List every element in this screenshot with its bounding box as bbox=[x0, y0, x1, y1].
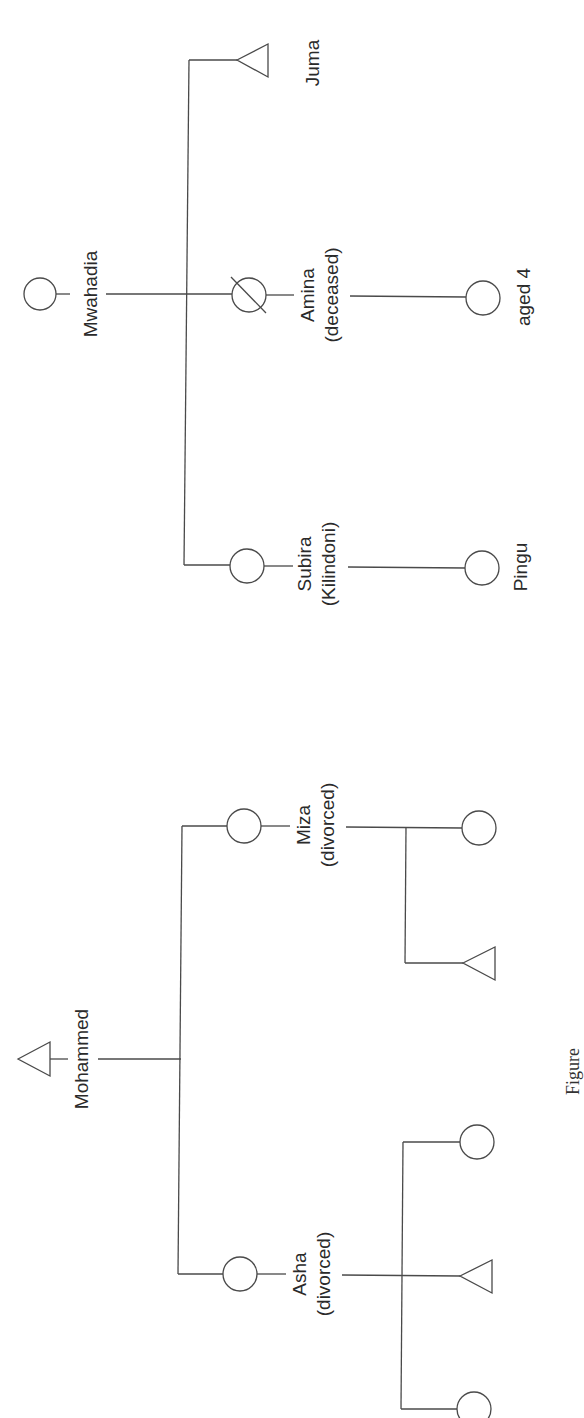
label-miza: Miza (divorced) bbox=[292, 774, 340, 876]
female-node-icon-mwahadia bbox=[24, 278, 56, 310]
figure-caption-text: Figure bbox=[563, 1048, 583, 1095]
name-miza: Miza bbox=[292, 774, 316, 876]
female-node-icon-miza-daughter bbox=[462, 811, 496, 845]
label-pingu: Pingu bbox=[509, 532, 533, 602]
label-amina: Amina (deceased) bbox=[296, 239, 344, 351]
label-mohammed: Mohammed bbox=[70, 997, 94, 1121]
edge-amina-to-child bbox=[350, 296, 466, 297]
label-mwahadia: Mwahadia bbox=[79, 238, 103, 350]
label-aged4: aged 4 bbox=[512, 258, 536, 336]
name-amina: Amina bbox=[296, 239, 320, 351]
note-asha: (divorced) bbox=[312, 1222, 336, 1326]
female-node-icon-asha bbox=[223, 1257, 257, 1291]
note-amina: (deceased) bbox=[320, 239, 344, 351]
note-subira: (Kilindoni) bbox=[317, 508, 341, 620]
name-aged4: aged 4 bbox=[512, 258, 536, 336]
edge-subira-to-child bbox=[348, 567, 465, 568]
sibling-bar-mohammed-children bbox=[178, 826, 182, 1274]
male-node-icon-asha-son bbox=[460, 1260, 492, 1293]
name-asha: Asha bbox=[288, 1222, 312, 1326]
male-node-icon-mohammed bbox=[18, 1042, 50, 1076]
name-mwahadia: Mwahadia bbox=[79, 238, 103, 350]
female-node-icon-aged4 bbox=[466, 281, 500, 315]
female-node-icon-miza bbox=[227, 809, 261, 843]
figure-caption: Figure bbox=[563, 1048, 584, 1095]
name-juma: Juma bbox=[301, 28, 325, 98]
male-node-icon-miza-son bbox=[463, 947, 495, 980]
sibling-bar-miza-children bbox=[405, 827, 406, 963]
female-node-icon-asha-daughter-2 bbox=[457, 1392, 491, 1418]
note-miza: (divorced) bbox=[316, 774, 340, 876]
name-subira: Subira bbox=[293, 508, 317, 620]
label-subira: Subira (Kilindoni) bbox=[293, 508, 341, 620]
edge-miza-to-children bbox=[346, 827, 462, 828]
male-node-icon-juma bbox=[237, 44, 268, 77]
name-mohammed: Mohammed bbox=[70, 997, 94, 1121]
label-juma: Juma bbox=[301, 28, 325, 98]
sibling-bar-mwahadia-children bbox=[184, 60, 189, 565]
female-node-icon-asha-daughter-1 bbox=[460, 1125, 494, 1159]
label-asha: Asha (divorced) bbox=[288, 1222, 336, 1326]
female-node-icon-subira bbox=[230, 549, 264, 583]
edge-asha-to-children bbox=[342, 1275, 460, 1276]
female-node-icon-pingu bbox=[465, 551, 499, 585]
name-pingu: Pingu bbox=[509, 532, 533, 602]
